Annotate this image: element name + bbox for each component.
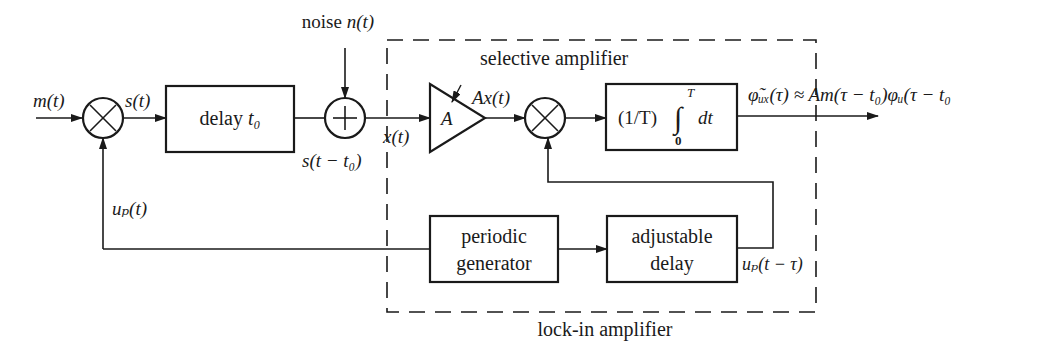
label-delayed-signal: s(t − t₀) (302, 150, 362, 172)
label-received: x(t) (382, 126, 409, 148)
block-diagram: m(t) s(t) delay t₀ noise n(t) s(t − t₀) … (0, 0, 1038, 352)
integrator-suffix: dt (698, 107, 714, 128)
summer (325, 98, 365, 138)
integral-upper: T (687, 85, 695, 100)
multiplier-1 (83, 98, 123, 138)
integral-lower: 0 (675, 133, 682, 148)
label-lock-in-amplifier: lock-in amplifier (538, 318, 673, 341)
integral-sign: ∫ (672, 101, 684, 137)
label-amplifier-caption: selective amplifier (480, 47, 629, 70)
label-signal-s: s(t) (125, 90, 150, 112)
label-noise: noise n(t) (302, 11, 374, 33)
label-reference: uₚ(t) (112, 198, 147, 220)
periodic-generator-line2: generator (456, 252, 532, 275)
label-message: m(t) (33, 90, 65, 112)
delay-label: delay t₀ (200, 107, 261, 130)
integrator-prefix: (1/T) (618, 107, 657, 129)
label-amplified: Ax(t) (470, 87, 510, 109)
adjustable-delay-line2: delay (650, 252, 693, 275)
label-output: φ̃ᵤₓ(τ) ≈ Am(τ − t₀)φᵤ(τ − t₀ (748, 84, 951, 106)
multiplier-2 (525, 98, 565, 138)
label-gain: A (439, 108, 453, 129)
periodic-generator-line1: periodic (461, 225, 527, 248)
adjustable-delay-line1: adjustable (631, 225, 712, 248)
label-reference-delayed: uₚ(t − τ) (742, 254, 803, 275)
